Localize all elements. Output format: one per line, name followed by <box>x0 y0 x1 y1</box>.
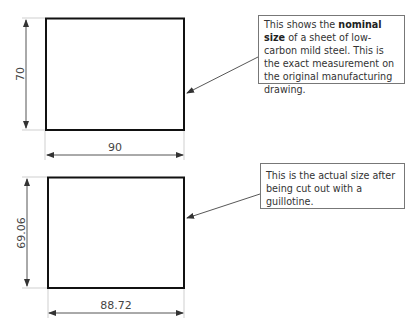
nominal-size-callout: This shows the nominal size of a sheet o… <box>258 15 405 84</box>
callout-text: This is the actual size after being cut … <box>266 170 395 207</box>
actual-size-callout: This is the actual size after being cut … <box>260 163 405 209</box>
width-dimension-label: 90 <box>108 141 122 154</box>
nominal-panel: 70 90 <box>14 18 258 160</box>
nominal-sheet-rectangle <box>46 19 184 131</box>
callout-pointer-arrow <box>187 57 258 93</box>
actual-sheet-rectangle <box>48 178 184 289</box>
height-dimension-label: 69.06 <box>15 217 28 249</box>
callout-pointer-arrow <box>187 194 260 218</box>
callout-text: This shows the <box>264 19 338 30</box>
width-dimension-label: 88.72 <box>100 299 132 312</box>
actual-panel: 69.06 88.72 <box>15 177 260 318</box>
height-dimension-label: 70 <box>14 67 27 81</box>
